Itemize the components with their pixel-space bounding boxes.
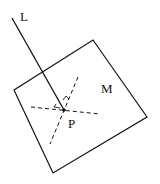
diagram-canvas: L M P <box>0 0 160 184</box>
label-point-p: P <box>68 117 75 130</box>
label-line-l: L <box>20 10 28 23</box>
label-plane-m: M <box>101 82 113 95</box>
diagram-svg <box>0 0 160 184</box>
right-angle-marker-1 <box>54 104 60 108</box>
point-p-dot <box>62 108 66 112</box>
plane-m <box>14 40 147 173</box>
